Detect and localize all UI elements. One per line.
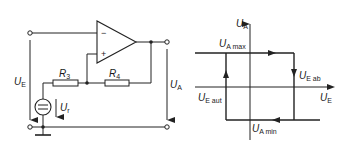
- resistor-r4: [105, 80, 129, 86]
- arrow-left-icon: [272, 117, 280, 123]
- circuit-diagram: − + R3 R4 Ur: [14, 21, 182, 135]
- r4-label: R4: [109, 68, 120, 80]
- input-terminal-bottom: [28, 125, 32, 129]
- r3-label: R3: [59, 68, 70, 80]
- ur-label: Ur: [60, 102, 70, 114]
- ue-aut-label: UE aut: [198, 92, 222, 104]
- opamp-plus-sign: +: [101, 49, 106, 59]
- wire-plus-input: [87, 54, 97, 83]
- output-terminal-top: [165, 40, 169, 44]
- ue-ab-label: UE ab: [299, 70, 321, 82]
- figure: − + R3 R4 Ur: [0, 0, 345, 150]
- hysteresis-graph: UA UE UA max UE ab UE aut UA min: [195, 18, 335, 140]
- arrow-down-icon: [291, 69, 297, 77]
- ue-label: UE: [14, 76, 26, 88]
- ua-min-label: UA min: [252, 123, 277, 135]
- arrow-right-icon: [268, 50, 276, 56]
- input-terminal-top: [28, 31, 32, 35]
- ua-max-label: UA max: [219, 38, 246, 50]
- opamp-minus-sign: −: [101, 28, 106, 38]
- wire-source-r3: [43, 83, 53, 99]
- arrow-up-icon: [223, 70, 229, 78]
- opamp: − +: [97, 21, 136, 63]
- x-axis-label: UE: [320, 92, 332, 104]
- x-axis-arrow-icon: [327, 84, 335, 90]
- wire-feedback: [129, 42, 151, 83]
- ground-icon: [35, 127, 51, 135]
- output-terminal-bottom: [165, 125, 169, 129]
- ua-label: UA: [170, 79, 182, 91]
- voltage-source-icon: [35, 99, 51, 115]
- y-axis-label: UA: [236, 18, 248, 30]
- resistor-r3: [53, 80, 78, 86]
